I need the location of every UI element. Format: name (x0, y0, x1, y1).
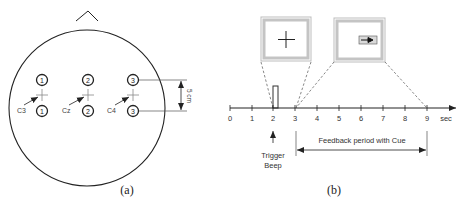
tick-label: 6 (359, 114, 363, 123)
distance-dimension: 5 cm (139, 80, 193, 111)
tick-label: 5 (337, 114, 341, 123)
zoom-guide-lines (261, 62, 427, 108)
tick-label: 4 (315, 114, 319, 123)
crosshair-icon (36, 89, 48, 101)
tick-label: 2 (271, 114, 275, 123)
tick-label: 3 (293, 114, 297, 123)
site-label-c3: C3 (17, 107, 26, 114)
caption-b: (b) (327, 183, 341, 197)
panel-b-trial-timeline: 0 1 2 3 4 5 6 7 8 9 sec Trigger Beep Fee… (228, 17, 456, 197)
channel-number: 2 (86, 108, 90, 115)
pointer-arrow (24, 97, 38, 105)
channel-number: 1 (40, 77, 44, 84)
caption-a: (a) (120, 183, 133, 197)
channel-number: 3 (131, 108, 135, 115)
fixation-cross-screen (261, 17, 311, 61)
tick-label: 7 (381, 114, 385, 123)
channel-number: 1 (40, 108, 44, 115)
feedback-label: Feedback period with Cue (318, 136, 405, 145)
electrode-group-c4: 3 3 C4 (107, 75, 139, 117)
channel-number: 2 (86, 77, 90, 84)
distance-label: 5 cm (186, 89, 193, 103)
site-label-cz: Cz (62, 107, 71, 114)
figure-canvas: 1 1 C3 2 2 Cz 3 3 C4 (0, 0, 464, 205)
panel-a-electrode-montage: 1 1 C3 2 2 Cz 3 3 C4 (9, 11, 193, 197)
trigger-label-line2: Beep (264, 161, 282, 170)
trigger-pulse (273, 86, 278, 108)
cue-arrow-screen (334, 18, 385, 62)
pointer-arrow (115, 97, 129, 105)
tick-label: 1 (250, 114, 254, 123)
axis-unit: sec (440, 114, 452, 123)
nose-icon (76, 11, 98, 21)
channel-number: 3 (131, 77, 135, 84)
trigger-label-line1: Trigger (261, 151, 285, 160)
crosshair-icon (127, 89, 139, 101)
tick-label: 9 (425, 114, 429, 123)
electrode-group-c3: 1 1 C3 (17, 75, 48, 117)
site-label-c4: C4 (107, 107, 116, 114)
pointer-arrow (69, 97, 84, 105)
tick-label: 0 (228, 114, 232, 123)
electrode-group-cz: 2 2 Cz (62, 75, 94, 117)
axis-tick-labels: 0 1 2 3 4 5 6 7 8 9 sec (228, 114, 452, 123)
crosshair-icon (82, 89, 94, 101)
tick-label: 8 (403, 114, 407, 123)
